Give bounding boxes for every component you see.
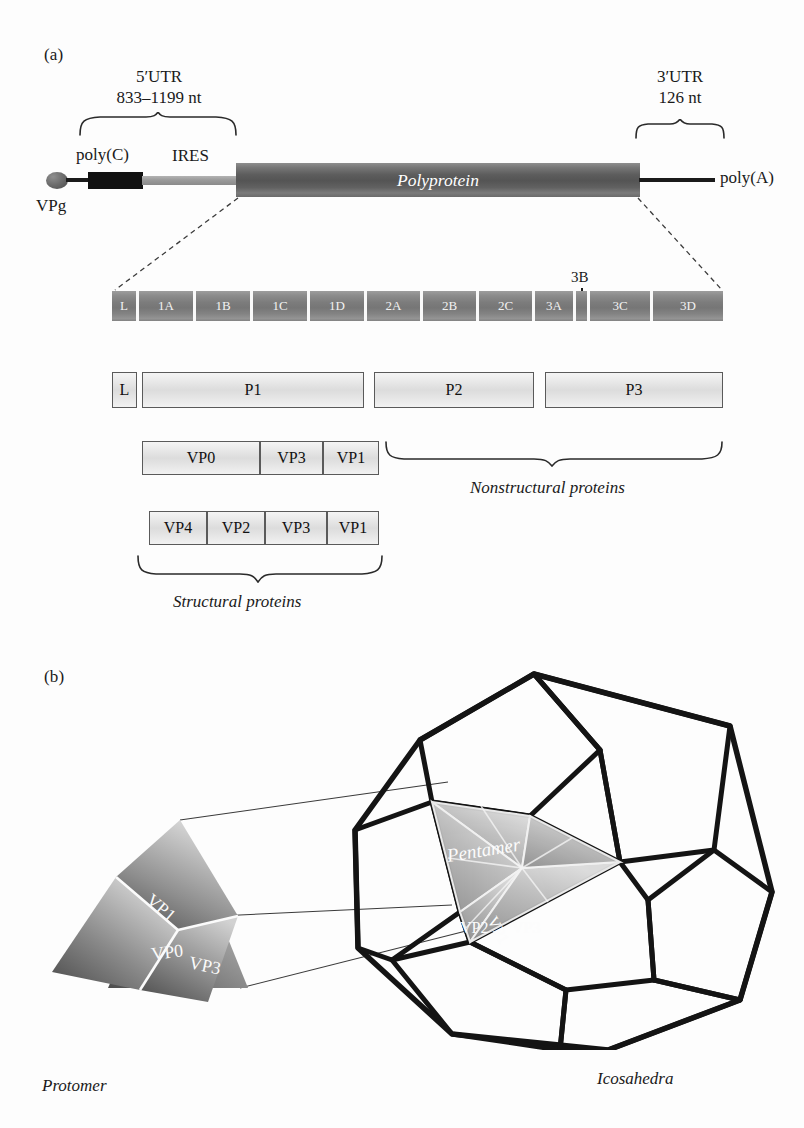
gene-map-bar: L1A1B1C1D2A2B2C3A3B3C3D [112, 291, 723, 321]
capsid-box-vp4: VP4 [149, 511, 207, 545]
genome-line-3p [639, 178, 715, 182]
gene-segment-divider [650, 291, 653, 321]
precursor-box-p1: P1 [142, 372, 364, 408]
gene-segment-2a: 2A [367, 291, 420, 321]
gene-segment-3c: 3C [590, 291, 650, 321]
gene-segment-3a: 3A [535, 291, 573, 321]
gene-segment-divider [587, 291, 590, 321]
gene-segment-label: 2A [386, 298, 402, 313]
p1-cleavage-box-label: VP1 [324, 442, 378, 473]
structural-caption: Structural proteins [173, 592, 301, 612]
structural-brace [136, 555, 384, 583]
gene-segment-divider [573, 291, 576, 321]
utr3-brace [634, 119, 726, 139]
gene-segment-divider [532, 291, 535, 321]
pentamer-vp2-label: VP2 [460, 919, 488, 936]
gene-segment-label: 1A [158, 298, 174, 313]
gene-segment-label: L [120, 298, 128, 313]
nonstructural-brace [384, 441, 724, 467]
precursor-box-label: P3 [546, 373, 722, 406]
utr3-length: 126 nt [620, 88, 740, 108]
utr5-brace [78, 112, 238, 136]
gene-3b-callout: 3B [571, 269, 589, 286]
gene-segment-label: 3A [546, 298, 562, 313]
gene-segment-label: 2C [498, 298, 513, 313]
polya-label: poly(A) [720, 168, 774, 188]
gene-segment-label: 1B [215, 298, 230, 313]
gene-segment-divider [420, 291, 423, 321]
vpg-icon [46, 172, 68, 189]
gene-segment-divider [364, 291, 367, 321]
ires-segment [142, 176, 238, 185]
gene-segment-2b: 2B [423, 291, 476, 321]
gene-segment-1d: 1D [310, 291, 364, 321]
gene-segment-3b: 3B [576, 291, 587, 321]
pentamer-vp3-label: VP3 [512, 919, 540, 936]
protomer-vp0-label: VP0 [150, 940, 184, 964]
expansion-guides [0, 190, 804, 300]
capsid-box-label: VP4 [150, 512, 206, 543]
capsid-box-label: VP2 [208, 512, 264, 543]
capsid-box-vp2: VP2 [207, 511, 265, 545]
p1-cleavage-box-vp1: VP1 [323, 441, 379, 475]
utr3-title: 3′UTR [620, 67, 740, 87]
capsid-protein-row: VP4VP2VP3VP1 [0, 511, 804, 545]
capsid-box-vp3: VP3 [265, 511, 327, 545]
precursor-box-p2: P2 [374, 372, 534, 408]
gene-segment-1b: 1B [196, 291, 250, 321]
gene-segment-label: 1D [329, 298, 345, 313]
nonstructural-caption: Nonstructural proteins [470, 478, 625, 498]
gene-segment-divider [136, 291, 139, 321]
utr5-length: 833–1199 nt [64, 88, 254, 108]
gene-segment-1a: 1A [139, 291, 193, 321]
capsid-box-label: VP3 [266, 512, 326, 543]
gene-segment-label: 2B [442, 298, 457, 313]
gene-segment-1c: 1C [253, 291, 307, 321]
precursor-protein-row: LP1P2P3 [0, 372, 804, 408]
gene-segment-divider [250, 291, 253, 321]
gene-segment-2c: 2C [479, 291, 532, 321]
icosahedra-caption: Icosahedra [597, 1069, 673, 1089]
precursor-box-label: P1 [143, 373, 363, 406]
precursor-box-label: P2 [375, 373, 533, 406]
gene-segment-label: 3C [612, 298, 627, 313]
protomer-caption: Protomer [42, 1076, 107, 1096]
precursor-box-label: L [113, 373, 136, 406]
polyc-label: poly(C) [76, 145, 129, 165]
p1-cleavage-box-vp3: VP3 [260, 441, 323, 475]
polyc-box [88, 172, 143, 189]
precursor-box-p3: P3 [545, 372, 723, 408]
p1-cleavage-box-label: VP0 [143, 442, 259, 473]
panel-a-label: (a) [44, 45, 63, 65]
gene-segment-divider [307, 291, 310, 321]
gene-segment-label: 1C [272, 298, 287, 313]
gene-segment-divider [476, 291, 479, 321]
p1-cleavage-box-vp0: VP0 [142, 441, 260, 475]
utr5-title: 5′UTR [64, 67, 254, 87]
gene-segment-label: 3D [680, 298, 696, 313]
figure-root: (a) 5′UTR 833–1199 nt poly(C) IRES VPg P… [0, 0, 804, 1128]
gene-segment-l: L [112, 291, 136, 321]
capsid-assembly-diagram: VP0 VP3 VP1 [0, 630, 804, 1050]
capsid-box-label: VP1 [328, 512, 378, 543]
gene-segment-divider [193, 291, 196, 321]
precursor-box-l: L [112, 372, 137, 408]
ires-label: IRES [172, 146, 209, 166]
capsid-box-vp1: VP1 [327, 511, 379, 545]
p1-cleavage-box-label: VP3 [261, 442, 322, 473]
gene-segment-3d: 3D [653, 291, 723, 321]
